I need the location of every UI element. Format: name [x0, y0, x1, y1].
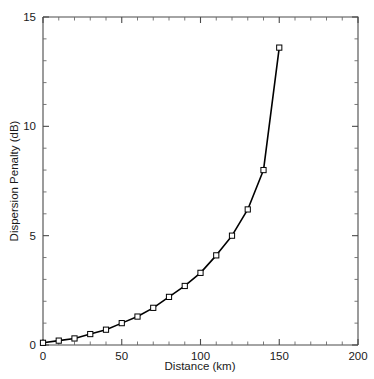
y-axis-tick-labels: 051015 — [23, 11, 36, 351]
data-point-marker — [88, 331, 93, 336]
data-point-marker — [166, 294, 171, 299]
y-axis-title: Dispersion Penalty (dB) — [8, 120, 20, 241]
chart-figure: 050100150200 051015 Distance (km) Disper… — [0, 0, 374, 379]
data-series-markers — [40, 45, 281, 345]
data-point-marker — [214, 253, 219, 258]
data-point-marker — [261, 167, 266, 172]
data-point-marker — [119, 321, 124, 326]
x-tick-label: 0 — [40, 350, 46, 362]
y-tick-label: 0 — [30, 339, 36, 351]
data-point-marker — [277, 45, 282, 50]
data-point-marker — [229, 233, 234, 238]
axes-frame — [43, 17, 358, 345]
dispersion-penalty-line-chart: 050100150200 051015 Distance (km) Disper… — [0, 0, 374, 379]
data-point-marker — [103, 327, 108, 332]
data-point-marker — [245, 207, 250, 212]
data-point-marker — [135, 314, 140, 319]
data-point-marker — [182, 283, 187, 288]
x-tick-label: 150 — [270, 350, 289, 362]
data-point-marker — [40, 340, 45, 345]
axis-top-right — [43, 17, 358, 345]
y-axis-minor-ticks — [43, 39, 358, 323]
data-series-line — [43, 48, 279, 343]
y-axis-major-ticks — [43, 17, 358, 345]
data-point-marker — [198, 270, 203, 275]
x-axis-title: Distance (km) — [165, 360, 236, 372]
data-point-marker — [56, 338, 61, 343]
x-axis-minor-ticks — [59, 17, 343, 345]
x-tick-label: 200 — [348, 350, 367, 362]
x-tick-label: 50 — [115, 350, 128, 362]
data-point-marker — [151, 305, 156, 310]
x-axis-major-ticks — [43, 17, 358, 345]
axis-left-bottom — [43, 17, 358, 345]
y-tick-label: 15 — [23, 11, 36, 23]
y-tick-label: 10 — [23, 120, 36, 132]
y-tick-label: 5 — [30, 230, 36, 242]
data-point-marker — [72, 336, 77, 341]
